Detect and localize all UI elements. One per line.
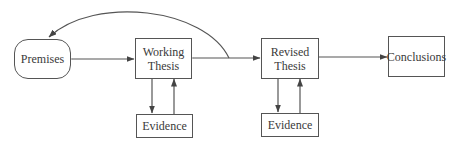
node-working-thesis-line2: Thesis (148, 59, 179, 73)
node-premises: Premises (14, 39, 71, 79)
node-revised-thesis: Revised Thesis (261, 38, 319, 79)
node-conclusions-label: Conclusions (387, 50, 446, 64)
node-conclusions: Conclusions (388, 36, 445, 77)
node-evidence-1: Evidence (136, 114, 193, 138)
node-evidence-2: Evidence (261, 113, 319, 137)
node-revised-thesis-line2: Thesis (274, 59, 305, 73)
node-working-thesis: Working Thesis (135, 38, 192, 79)
node-working-thesis-line1: Working (143, 45, 185, 59)
node-evidence-2-label: Evidence (268, 118, 313, 132)
node-premises-label: Premises (21, 52, 64, 66)
node-evidence-1-label: Evidence (142, 119, 187, 133)
node-revised-thesis-line1: Revised (271, 45, 310, 59)
